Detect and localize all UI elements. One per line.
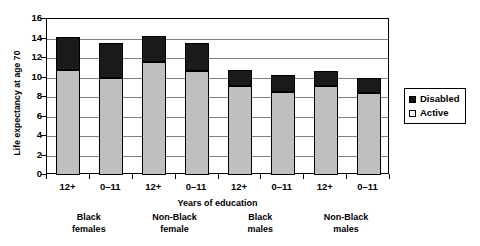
chart-figure: Life expectancy at age 70 1614121086420 …: [0, 0, 480, 246]
bar-stack: [142, 19, 166, 175]
bar-segment-disabled: [99, 43, 123, 78]
y-axis-tick-label: 12: [16, 52, 42, 62]
x-axis-tick-mark: [175, 174, 176, 179]
chart-legend: DisabledActive: [404, 88, 466, 124]
plot-area: [46, 18, 389, 174]
bar-segment-active: [142, 62, 166, 175]
x-axis-tick-mark: [218, 174, 219, 179]
bar-stack: [56, 19, 80, 175]
y-axis-tick-label: 14: [16, 33, 42, 43]
bar-stack: [271, 19, 295, 175]
x-axis-tick-mark: [46, 174, 47, 179]
bar-segment-disabled: [357, 78, 381, 93]
y-axis-tick-label: 4: [16, 130, 42, 140]
y-axis-tick-label: 16: [16, 13, 42, 23]
bar-segment-disabled: [314, 71, 338, 87]
y-axis-tick-label: 0: [16, 169, 42, 179]
legend-item-label: Active: [420, 108, 449, 118]
bar-segment-disabled: [142, 36, 166, 62]
bar-stack: [314, 19, 338, 175]
bar-segment-active: [271, 92, 295, 175]
group-label-line1: Non-Black: [294, 212, 398, 224]
bar-segment-disabled: [271, 75, 295, 93]
x-axis-tick-mark: [89, 174, 90, 179]
bar-segment-active: [185, 71, 209, 175]
bar-segment-active: [228, 86, 252, 175]
y-axis-title: Life expectancy at age 70: [12, 18, 22, 188]
x-axis-tick-mark: [132, 174, 133, 179]
bar-stack: [228, 19, 252, 175]
bar-stack: [99, 19, 123, 175]
bar-segment-active: [56, 70, 80, 175]
black-square-icon: [409, 96, 416, 103]
bar-segment-active: [357, 93, 381, 175]
y-axis-tick-label: 10: [16, 72, 42, 82]
bar-segment-active: [99, 78, 123, 175]
x-axis-title: Years of education: [46, 198, 389, 208]
x-axis-tick-label: 0–11: [340, 181, 396, 192]
bar-segment-disabled: [228, 70, 252, 87]
legend-item-label: Disabled: [420, 94, 460, 104]
y-axis-tick-label: 2: [16, 150, 42, 160]
x-axis-tick-mark: [346, 174, 347, 179]
x-axis-tick-mark: [389, 174, 390, 179]
bar-stack: [357, 19, 381, 175]
legend-item: Disabled: [409, 92, 460, 106]
bar-segment-active: [314, 86, 338, 175]
bar-segment-disabled: [185, 43, 209, 70]
group-label: Non-Blackmales: [294, 212, 398, 235]
bar-segment-disabled: [56, 37, 80, 70]
group-label-line2: males: [294, 224, 398, 236]
x-axis-tick-mark: [260, 174, 261, 179]
bar-stack: [185, 19, 209, 175]
white-square-icon: [409, 110, 416, 117]
y-axis-tick-label: 8: [16, 91, 42, 101]
y-axis-tick-label: 6: [16, 111, 42, 121]
legend-item: Active: [409, 106, 460, 120]
x-axis-tick-mark: [303, 174, 304, 179]
